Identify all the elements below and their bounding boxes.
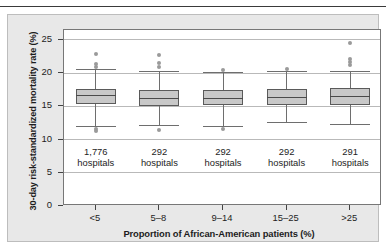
x-tick-label-3: 15–25 bbox=[251, 213, 321, 222]
whisker-cap-lower bbox=[330, 124, 370, 125]
y-tick-15 bbox=[58, 105, 63, 106]
y-tick-20 bbox=[58, 72, 63, 73]
x-axis-title: Proportion of African-American patients … bbox=[54, 228, 384, 239]
y-tick-label-10: 10 bbox=[24, 134, 52, 144]
outlier-point bbox=[348, 41, 352, 45]
x-tick-4 bbox=[349, 205, 350, 210]
y-tick-0 bbox=[58, 205, 63, 206]
outlier-point bbox=[157, 65, 161, 69]
whisker-cap-upper bbox=[76, 69, 116, 70]
x-tick-label-1: 5–8 bbox=[123, 213, 193, 222]
outlier-point bbox=[285, 67, 289, 71]
gridline-y-5 bbox=[64, 172, 380, 173]
x-tick-1 bbox=[158, 205, 159, 210]
y-tick-label-15: 15 bbox=[24, 100, 52, 110]
outlier-point bbox=[94, 62, 98, 66]
whisker-cap-lower bbox=[267, 122, 307, 123]
y-tick-10 bbox=[58, 139, 63, 140]
whisker-cap-lower bbox=[139, 125, 179, 126]
boxplot-box bbox=[76, 89, 116, 104]
median-line bbox=[203, 98, 243, 99]
outlier-point bbox=[157, 128, 161, 132]
figure-panel: 30-day risk-standardized mortality rate … bbox=[7, 14, 379, 242]
outlier-point bbox=[94, 127, 98, 131]
median-line bbox=[76, 95, 116, 96]
whisker-cap-upper bbox=[330, 71, 370, 72]
figure-container: 30-day risk-standardized mortality rate … bbox=[0, 0, 386, 252]
y-tick-label-25: 25 bbox=[24, 34, 52, 44]
y-tick-label-0: 0 bbox=[24, 200, 52, 210]
x-tick-label-0: <5 bbox=[60, 213, 130, 222]
y-tick-label-5: 5 bbox=[24, 167, 52, 177]
median-line bbox=[330, 96, 370, 97]
gridline-y-20 bbox=[64, 73, 380, 74]
outlier-point bbox=[348, 57, 352, 61]
outlier-point bbox=[94, 52, 98, 56]
median-line bbox=[139, 98, 179, 99]
y-tick-label-20: 20 bbox=[24, 67, 52, 77]
gridline-y-10 bbox=[64, 139, 380, 140]
whisker-cap-upper bbox=[139, 71, 179, 72]
hospital-count-value: 291 bbox=[313, 146, 386, 158]
x-tick-label-2: 9–14 bbox=[187, 213, 257, 222]
gridline-y-15 bbox=[64, 106, 380, 107]
outlier-point bbox=[221, 68, 225, 72]
x-tick-label-4: >25 bbox=[314, 213, 384, 222]
figure-top-rule bbox=[0, 6, 386, 7]
gridline-y-25 bbox=[64, 39, 380, 40]
x-tick-2 bbox=[222, 205, 223, 210]
hospital-count-unit: hospitals bbox=[313, 157, 386, 169]
y-tick-25 bbox=[58, 39, 63, 40]
outlier-point bbox=[157, 61, 161, 65]
whisker-cap-upper bbox=[267, 71, 307, 72]
outlier-point bbox=[221, 127, 225, 131]
y-axis-title: 30-day risk-standardized mortality rate … bbox=[25, 21, 41, 221]
whisker-cap-upper bbox=[203, 72, 243, 73]
median-line bbox=[267, 97, 307, 98]
plot-area: 1,776hospitals292hospitals292hospitals29… bbox=[63, 29, 381, 205]
y-tick-5 bbox=[58, 172, 63, 173]
hospital-count-annotation: 291hospitals bbox=[313, 146, 386, 169]
x-tick-3 bbox=[286, 205, 287, 210]
x-tick-0 bbox=[95, 205, 96, 210]
outlier-point bbox=[157, 53, 161, 57]
